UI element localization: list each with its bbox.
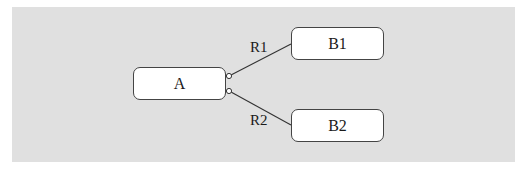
connector-r2-icon [226,88,231,93]
node-b1-label: B1 [328,35,347,53]
node-a: A [133,67,226,100]
connector-r1-icon [226,73,231,78]
edges-layer [0,0,524,170]
edge-label-r1: R1 [250,40,268,55]
node-b1: B1 [291,27,384,60]
node-a-label: A [174,75,186,93]
edge-label-r2: R2 [250,113,268,128]
node-b2: B2 [291,109,384,142]
node-b2-label: B2 [328,117,347,135]
